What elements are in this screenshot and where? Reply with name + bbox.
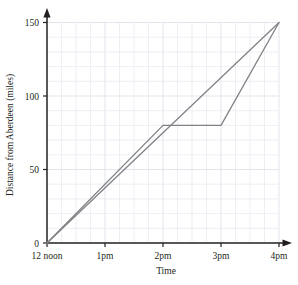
distance-time-chart: 0 50 100 150 12 noon 1pm 2pm 3pm 4pm Tim…: [0, 0, 298, 285]
x-tick-label-4pm: 4pm: [271, 251, 289, 261]
y-tick-label-50: 50: [30, 165, 40, 175]
x-axis: [47, 239, 292, 246]
y-tick-label-150: 150: [25, 18, 40, 28]
y-tick-label-0: 0: [34, 239, 39, 249]
chart-canvas: 0 50 100 150 12 noon 1pm 2pm 3pm 4pm Tim…: [0, 0, 298, 285]
x-tick-label-1pm: 1pm: [97, 251, 115, 261]
x-axis-title: Time: [156, 266, 176, 276]
y-axis-title: Distance from Aberdeen (miles): [5, 74, 16, 196]
x-tick-label-3pm: 3pm: [213, 251, 231, 261]
x-tick-label-12noon: 12 noon: [32, 251, 63, 261]
x-tick-label-2pm: 2pm: [155, 251, 173, 261]
y-tick-label-100: 100: [25, 92, 40, 102]
